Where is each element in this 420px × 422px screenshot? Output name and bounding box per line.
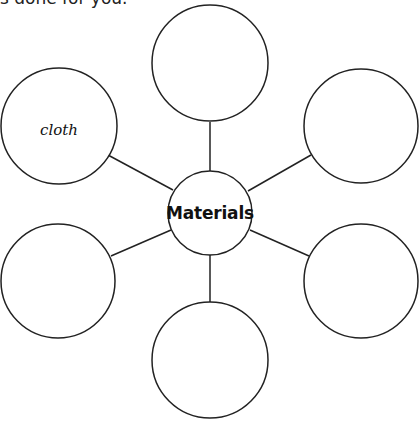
connector-line-top-right	[248, 155, 311, 191]
circle-top-right	[304, 69, 418, 183]
connector-line-top-left	[108, 155, 173, 190]
circle-bottom-left	[1, 224, 115, 338]
circle-bottom	[152, 302, 268, 418]
connector-line-bottom-left	[111, 230, 171, 256]
worksheet-page: s done for you. Materials cloth	[0, 0, 420, 422]
circle-bottom-right	[304, 224, 418, 338]
circle-top	[152, 5, 268, 121]
node-label-top-left: cloth	[40, 121, 78, 139]
connector-line-bottom-right	[250, 230, 309, 256]
center-label-materials: Materials	[166, 203, 254, 223]
